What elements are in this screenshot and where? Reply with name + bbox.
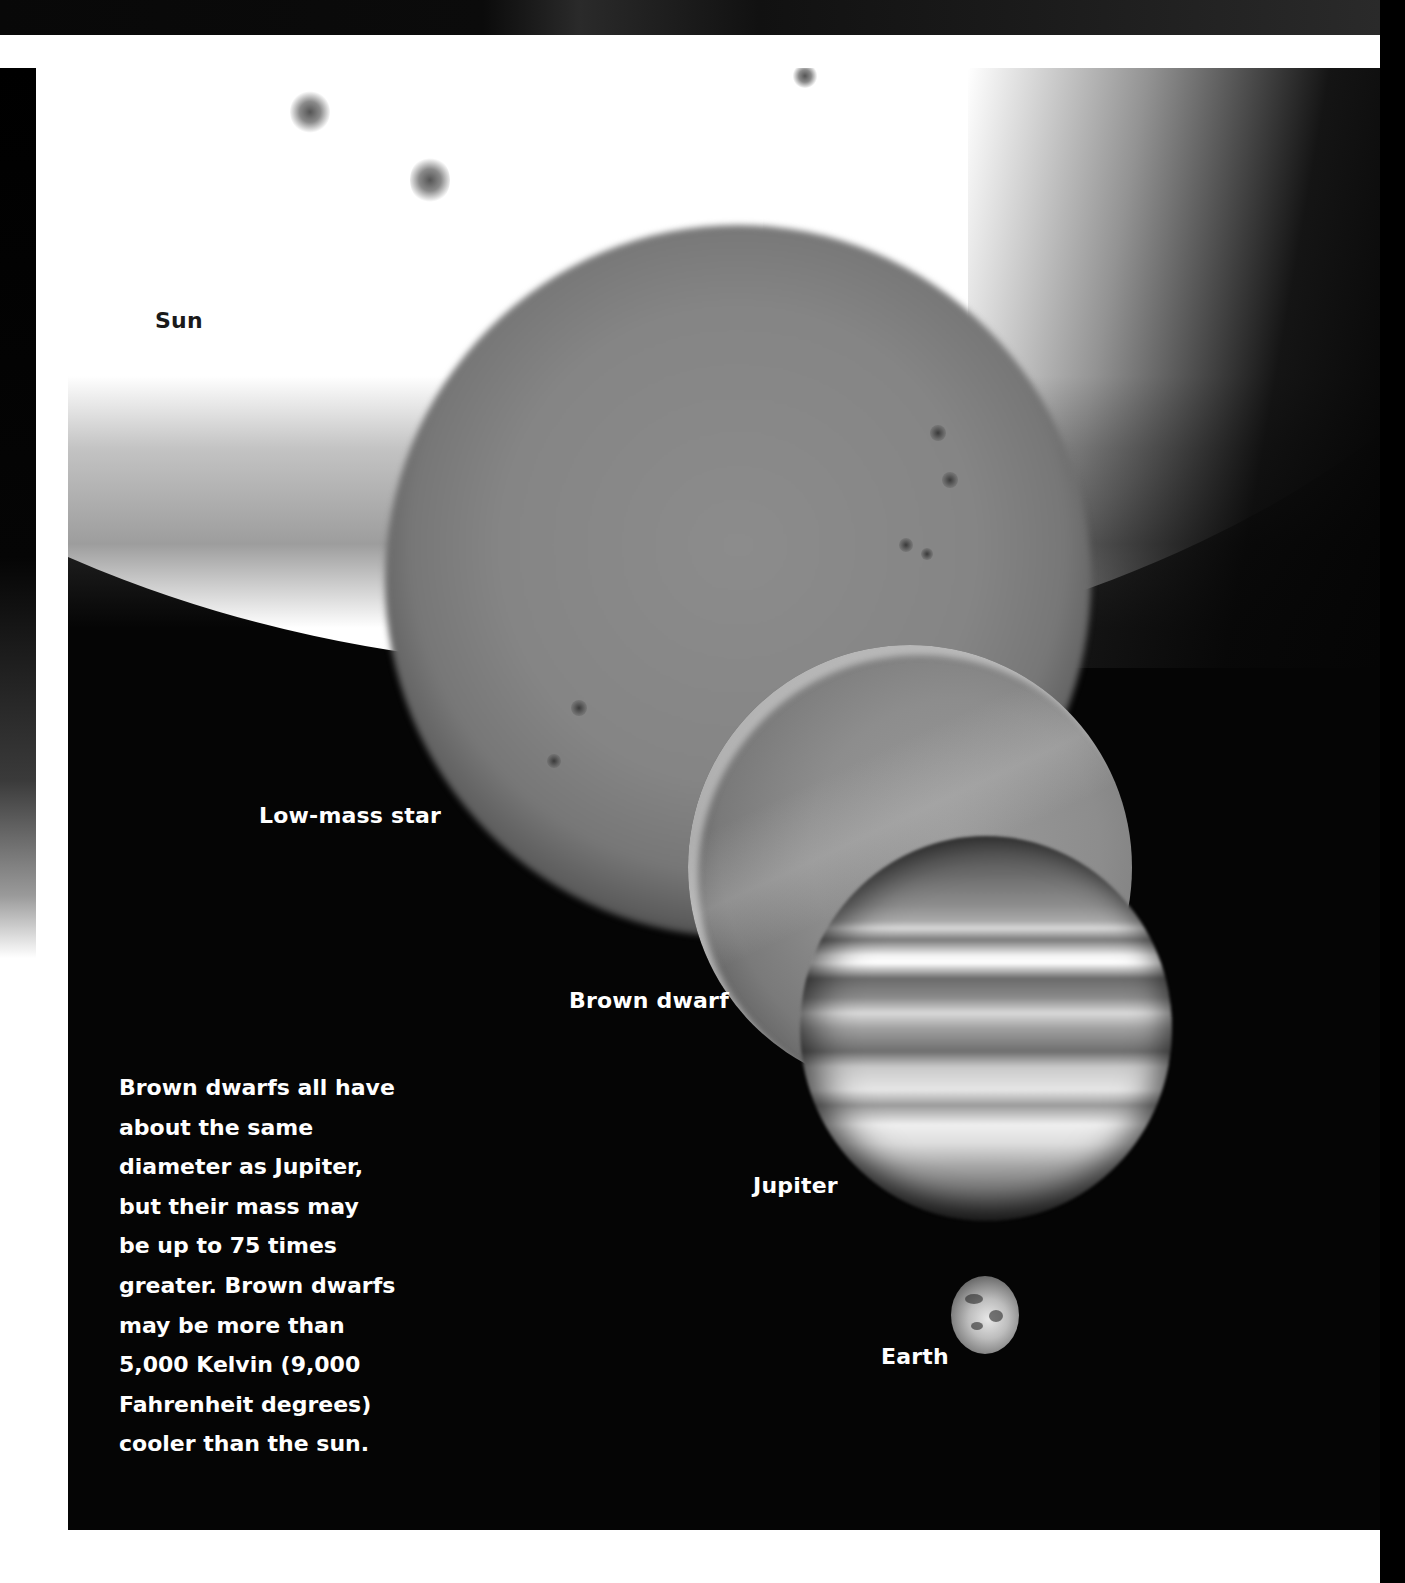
jupiter-disc xyxy=(800,836,1172,1221)
starspot-icon xyxy=(899,538,913,552)
starspot-icon xyxy=(930,425,946,441)
top-dark-strip xyxy=(0,0,1380,35)
starspot-icon xyxy=(571,700,587,716)
earth-disc xyxy=(951,1276,1019,1354)
caption-line: cooler than the sun. xyxy=(119,1424,419,1464)
illustration-scene: Sun Low-mass star Brown dwarf Jupiter Ea… xyxy=(68,68,1380,1530)
right-page-edge xyxy=(1380,0,1405,1583)
caption-line: about the same xyxy=(119,1108,419,1148)
caption-line: greater. Brown dwarfs xyxy=(119,1266,419,1306)
left-page-edge xyxy=(0,68,36,958)
starspot-icon xyxy=(921,548,933,560)
caption-line: Fahrenheit degrees) xyxy=(119,1385,419,1425)
caption-line: be up to 75 times xyxy=(119,1226,419,1266)
caption-line: may be more than xyxy=(119,1306,419,1346)
label-jupiter: Jupiter xyxy=(753,1173,838,1198)
caption-line: but their mass may xyxy=(119,1187,419,1227)
label-sun: Sun xyxy=(155,308,203,333)
earth-landmass-icon xyxy=(965,1294,983,1304)
caption-line: diameter as Jupiter, xyxy=(119,1147,419,1187)
earth-landmass-icon xyxy=(971,1322,983,1330)
label-low-mass-star: Low-mass star xyxy=(259,803,441,828)
caption-line: Brown dwarfs all have xyxy=(119,1068,419,1108)
sunspot-icon xyxy=(290,90,330,134)
label-earth: Earth xyxy=(881,1344,949,1369)
sunspot-icon xyxy=(410,156,450,204)
starspot-icon xyxy=(942,472,958,488)
caption-line: 5,000 Kelvin (9,000 xyxy=(119,1345,419,1385)
starspot-icon xyxy=(547,754,561,768)
label-brown-dwarf: Brown dwarf xyxy=(569,988,729,1013)
earth-landmass-icon xyxy=(989,1310,1003,1322)
caption-text: Brown dwarfs all have about the same dia… xyxy=(119,1068,419,1464)
